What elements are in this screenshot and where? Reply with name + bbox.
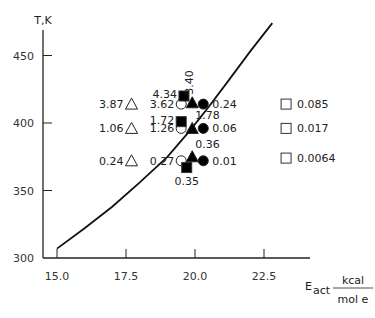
x-axis-title-denominator: mol e <box>338 293 369 306</box>
filled-circle-marker <box>198 99 208 109</box>
x-tick-label: 22.5 <box>252 270 277 283</box>
y-tick-label: 400 <box>13 117 34 130</box>
filled-triangle-marker <box>186 122 198 133</box>
point-label: 0.01 <box>212 155 237 168</box>
x-axis-title-numerator: kcal <box>342 274 364 287</box>
filled-square-marker <box>182 163 192 173</box>
x-tick-label: 17.5 <box>114 270 139 283</box>
point-label: 1.06 <box>99 122 124 135</box>
open-triangle-marker <box>126 155 138 166</box>
point-label: 0.017 <box>297 122 329 135</box>
x-tick-label: 15.0 <box>45 270 70 283</box>
x-axis-title-main: E <box>305 280 312 293</box>
point-label: 4.34 <box>152 88 177 101</box>
open-triangle-marker <box>126 98 138 109</box>
chart: 30035040045015.017.520.022.5T,KEactkcalm… <box>0 0 375 318</box>
y-tick-label: 450 <box>13 50 34 63</box>
x-axis-title-sub: act <box>313 284 331 297</box>
open-square-marker <box>281 153 291 163</box>
point-label: 0.24 <box>212 98 237 111</box>
filled-circle-marker <box>198 123 208 133</box>
y-tick-label: 300 <box>13 252 34 265</box>
curve-line <box>57 23 272 249</box>
point-label: 0.27 <box>150 155 175 168</box>
filled-square-marker <box>176 117 186 127</box>
y-tick-label: 350 <box>13 185 34 198</box>
filled-circle-marker <box>198 156 208 166</box>
point-label: 1.78 <box>195 109 220 122</box>
boundary-curve <box>57 23 272 249</box>
point-label: 0.36 <box>195 138 220 151</box>
point-label: 0.35 <box>174 175 199 188</box>
open-triangle-marker <box>126 122 138 133</box>
point-label: 3.87 <box>99 98 124 111</box>
point-label: 0.24 <box>99 155 124 168</box>
point-label: 0.085 <box>297 98 329 111</box>
point-label: 1.72 <box>150 114 175 127</box>
open-square-marker <box>281 99 291 109</box>
x-tick-label: 20.0 <box>183 270 208 283</box>
point-label: 0.06 <box>212 122 237 135</box>
y-axis-title: T,K <box>33 14 52 27</box>
point-label: 0.0064 <box>297 152 336 165</box>
point-label-rotated: 3.40 <box>183 70 196 95</box>
filled-triangle-marker <box>186 151 198 162</box>
open-square-marker <box>281 123 291 133</box>
